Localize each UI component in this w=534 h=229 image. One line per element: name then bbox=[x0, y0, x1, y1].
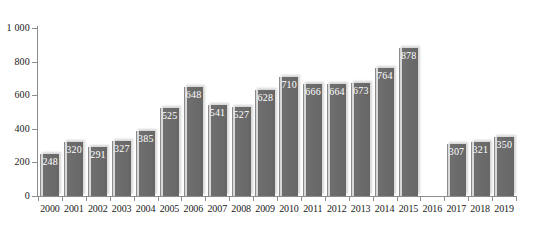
bar-value-label: 527 bbox=[234, 110, 253, 120]
bar: 673 bbox=[351, 83, 370, 196]
bar-value-label: 320 bbox=[66, 145, 85, 155]
y-axis-tick-label: 800 bbox=[0, 57, 30, 67]
bar-value-label: 350 bbox=[496, 140, 515, 150]
x-axis-tick bbox=[325, 196, 326, 201]
x-axis-tick bbox=[349, 196, 350, 201]
bar-value-label: 878 bbox=[401, 51, 420, 61]
y-axis-tick-label: 200 bbox=[0, 157, 30, 167]
y-axis-tick-label: 0 bbox=[0, 191, 30, 201]
y-axis-line bbox=[37, 26, 38, 197]
bar-value-label: 327 bbox=[114, 144, 133, 154]
bar: 878 bbox=[399, 48, 418, 196]
x-axis-tick bbox=[205, 196, 206, 201]
x-axis-tick bbox=[444, 196, 445, 201]
bar-value-label: 541 bbox=[210, 108, 229, 118]
bar-value-label: 664 bbox=[329, 87, 348, 97]
bar: 320 bbox=[64, 142, 83, 196]
y-axis-tick-label: 400 bbox=[0, 124, 30, 134]
x-axis-tick bbox=[468, 196, 469, 201]
bar: 648 bbox=[184, 87, 203, 196]
x-axis-tick bbox=[110, 196, 111, 201]
x-axis-tick bbox=[516, 196, 517, 201]
bar: 525 bbox=[160, 108, 179, 196]
bar: 291 bbox=[88, 147, 107, 196]
bar: 248 bbox=[40, 154, 59, 196]
y-axis-tick bbox=[32, 129, 38, 130]
bar: 541 bbox=[208, 105, 227, 196]
bar-value-label: 648 bbox=[186, 90, 205, 100]
bar-value-label: 321 bbox=[473, 145, 492, 155]
bar-value-label: 385 bbox=[138, 134, 157, 144]
y-axis-tick bbox=[32, 62, 38, 63]
bar: 764 bbox=[375, 68, 394, 196]
y-axis-tick-label: 600 bbox=[0, 90, 30, 100]
x-axis-tick bbox=[181, 196, 182, 201]
x-axis-tick bbox=[134, 196, 135, 201]
bar: 307 bbox=[447, 144, 466, 196]
y-axis-tick bbox=[32, 95, 38, 96]
x-axis-tick bbox=[229, 196, 230, 201]
y-axis-tick bbox=[32, 162, 38, 163]
bar-value-label: 673 bbox=[353, 86, 372, 96]
bar-chart: 02004006008001 000 200020012002200320042… bbox=[0, 0, 534, 229]
x-axis-tick-label: 2019 bbox=[490, 204, 518, 214]
bar: 350 bbox=[494, 137, 513, 196]
y-axis-tick bbox=[32, 28, 38, 29]
x-axis-tick bbox=[373, 196, 374, 201]
bar: 321 bbox=[471, 142, 490, 196]
x-axis-tick bbox=[38, 196, 39, 201]
bar-value-label: 248 bbox=[42, 157, 61, 167]
bar-value-label: 710 bbox=[281, 80, 300, 90]
bar-value-label: 764 bbox=[377, 71, 396, 81]
bar: 527 bbox=[232, 107, 251, 196]
x-axis-tick bbox=[301, 196, 302, 201]
y-axis-tick-label: 1 000 bbox=[0, 23, 30, 33]
x-axis-tick bbox=[420, 196, 421, 201]
bar-value-label: 307 bbox=[449, 147, 468, 157]
x-axis-tick bbox=[62, 196, 63, 201]
bar: 628 bbox=[255, 90, 274, 196]
bar-value-label: 291 bbox=[90, 150, 109, 160]
bar: 664 bbox=[327, 84, 346, 196]
bar: 327 bbox=[112, 141, 131, 196]
x-axis-tick bbox=[158, 196, 159, 201]
x-axis-tick bbox=[86, 196, 87, 201]
x-axis-tick bbox=[253, 196, 254, 201]
bar-value-label: 525 bbox=[162, 111, 181, 121]
bar-value-label: 628 bbox=[257, 93, 276, 103]
x-axis-tick bbox=[397, 196, 398, 201]
bar: 666 bbox=[303, 84, 322, 196]
x-axis-tick bbox=[492, 196, 493, 201]
bar: 710 bbox=[279, 77, 298, 196]
x-axis-tick bbox=[277, 196, 278, 201]
bar: 385 bbox=[136, 131, 155, 196]
bar-value-label: 666 bbox=[305, 87, 324, 97]
